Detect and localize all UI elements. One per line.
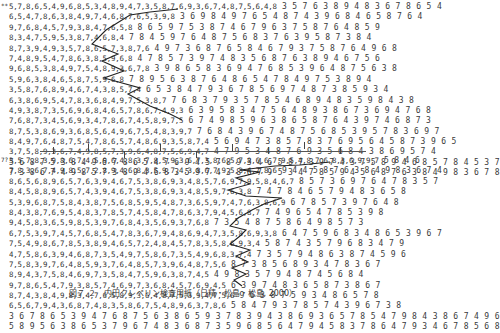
remaining-digits: 6 5 3 8 4 7 9 3 6 7 8 5 6 9 7 4 8 7 3 8 … xyxy=(146,85,389,94)
digit-row: 5,3,9,6,8,7,5,8,4,3,8,7,5,6,8,5,9,5,4,8,… xyxy=(9,198,366,208)
remaining-digits: 7 8 9 5 6 3 8 7 6 4 8 6 5 4 7 8 4 9 7 5 … xyxy=(129,75,372,84)
digit-row: 5,7,8,6,5,4,9,6,8,5,3,4,8,9,4,7,3,5,8,7,… xyxy=(9,2,366,12)
digit-row: 8,4,3,8,7,6,9,5,4,8,3,7,8,5,7,4,5,8,4,7,… xyxy=(9,208,366,218)
remaining-digits: 8 7 3 8 5 6 8 9 3 4 7 8 3 6 7 xyxy=(231,260,381,269)
completed-digits: 8,7,5,3,8,6,9,3,6,8,5,6,4,9,6,7,5,4,8,3,… xyxy=(9,127,192,136)
completed-digits: 8,3,4,7,5,9,5,3,8,7,4,6,8,4 xyxy=(9,33,124,42)
remaining-digits: 6 4 7 5 9 6 8 3 4 8 6 5 3 9 6 7 xyxy=(282,229,442,238)
ruler-tick xyxy=(268,147,269,154)
remaining-digits: 5 6 9 4 7 3 8 5 7 8 3 7 6 9 5 6 4 5 8 7 … xyxy=(214,137,457,146)
completed-digits: 5,9,6,3,8,4,6,5,8,7,5,9,6,8 xyxy=(9,75,124,84)
remaining-digits: 6 7 8 5 7 3 9 7 6 4 8 xyxy=(290,198,399,207)
digit-row: 4,7,5,8,6,3,9,4,6,8,7,3,5,4,9,7,5,8,6,7,… xyxy=(9,250,366,260)
completed-digits: 8,4,3,8,7,6,9,5,4,8,3,7,8,5,7,4,5,8,4,7,… xyxy=(9,208,260,217)
remaining-digits: 6 3 9 5 8 3 4 7 5 6 4 8 9 3 8 6 7 3 6 9 … xyxy=(188,106,431,115)
remaining-digits: 4 9 8 3 5 7 9 4 8 7 4 5 6 8 4 xyxy=(214,270,364,279)
digit-row: 3 6 7 8 6 5 3 9 4 7 6 8 7 5 6 3 8 6 5 9 … xyxy=(9,312,366,322)
remaining-digits: 7 6 8 3 7 9 3 5 7 8 5 4 6 8 9 4 8 3 5 9 … xyxy=(171,96,414,105)
completed-digits: 7,6,8,7,3,4,5,6,9,3,4,7,8,6,7,4,5,8,9,7,… xyxy=(9,116,183,125)
digit-row: 6,7,5,3,9,7,4,5,7,6,8,5,4,7,8,3,6,7,9,4,… xyxy=(9,229,366,239)
remaining-digits: 3 9 8 6 5 8 3 6 9 4 7 6 8 5 3 9 6 4 8 7 … xyxy=(154,64,397,73)
remaining-digits: 6 7 4 9 8 5 9 6 3 8 6 5 8 7 6 4 3 9 7 4 … xyxy=(188,116,431,125)
figure-caption: 図７.２ 内田クレペリン検査用紙（日精・松島・松島, 2000） xyxy=(0,287,366,297)
digit-row: 8,7,5,3,8,6,9,3,6,8,5,6,4,9,6,7,5,4,8,3,… xyxy=(9,127,366,137)
completed-digits: 7,5,8,3,9,7,6,4,8,5,9,3,7,6,4,8,5,7,3,9,… xyxy=(9,260,226,269)
digit-row: 5 8 9 5 6 3 8 6 5 3 7 9 6 7 4 8 3 6 8 7 … xyxy=(9,322,366,332)
digit-row: 7,4,8,9,5,4,7,8,6,3,8,5,9,6,8 4 7 8 5 7 … xyxy=(9,54,366,64)
completed-digits: 7,5,4,9,8,6,7,8,5,3,8,9,4,6,5,7,2,4,8,4,… xyxy=(9,239,260,248)
completed-digits: 9,6,8,5,3,8,4,9,7,5,4,8,9,3,6,7,8 xyxy=(9,64,149,73)
remaining-digits: 7 3 5 4 8 7 5 8 6 4 9 8 5 7 3 xyxy=(214,218,364,227)
digit-row: 7,5,8,3,9,7,6,4,8,5,9,3,7,6,4,8,5,7,3,9,… xyxy=(9,260,366,270)
remaining-digits: 7 4 9 6 5 4 7 8 5 3 9 8 xyxy=(265,208,384,217)
completed-digits: 6,5,4,7,8,6,3,8,4,9,7,4,6,8,7,6,5,3,9,8 xyxy=(9,12,175,21)
digit-grid-bottom: 3,5,7,8,3,9,8,6,7,4,5,9,6,4,8,3,7,8,5,9,… xyxy=(0,156,366,333)
ruler-tick xyxy=(232,144,233,151)
completed-digits: 8,7,3,9,4,9,3,5,7,8,6,5,7,3,8,7,6 xyxy=(9,44,149,53)
ruler-tick xyxy=(160,144,161,151)
remaining-digits: 5 8 4 7 9 3 7 8 5 7 4 3 9 6 7 3 8 xyxy=(231,301,402,310)
digit-row: 6,5,4,7,8,6,3,8,4,9,7,4,6,8,7,6,5,3,9,8 … xyxy=(9,12,366,22)
remaining-digits: 9 4 4 5 8 7 6 3 8 4 9 8 3 6 7 4 xyxy=(282,166,442,175)
remaining-digits: 3 6 9 8 4 9 7 6 5 4 8 7 4 3 9 6 8 4 6 5 … xyxy=(180,12,423,21)
completed-digits: 7,4,8,9,5,4,7,8,6,3,8,5,9,6,8 xyxy=(9,54,132,63)
completed-digits: 6,5,6,7,9,4,3,6,8,7,4,8,3,5,8,6,7,5,4,8,… xyxy=(9,301,226,310)
ruler-tick xyxy=(304,142,305,149)
digit-row: 6,3,8,6,9,5,4,7,8,3,6,8,4,9,7,5,3,8,7 7 … xyxy=(9,96,366,106)
remaining-digits: 7 6 8 4 3 9 6 7 4 8 7 5 6 8 5 3 9 5 7 8 … xyxy=(197,127,440,136)
remaining-digits: 5 8 7 4 3 5 7 9 6 8 3 4 7 9 xyxy=(265,239,405,248)
completed-digits: 8,4,5,8,8,9,6,5,7,4,3,9,4,6,7,5,3,8,6,9,… xyxy=(9,187,251,196)
completed-digits: 7,8,3,6,7,4,9,8,5,7,2,8,9,4,6,8,3,5,9,7,… xyxy=(9,166,277,175)
completed-digits: 4,7,5,8,6,3,9,4,6,8,7,3,5,4,9,7,5,8,6,7,… xyxy=(9,250,251,259)
completed-digits: 8,6,5,6,8,9,6,5,7,6,3,9,4,6,7,5,3,8,6,9,… xyxy=(9,177,294,186)
completed-digits: 3,5,8,7,6,8,9,4,6,7,4,3,8,5,7,4 xyxy=(9,85,141,94)
digit-row: 4,9,3,8,7,3,5,6,9,6,8,4,6,5,7,8,6,7,4,9,… xyxy=(9,106,366,116)
digit-row: 7,8,3,6,7,4,9,8,5,7,2,8,9,4,6,8,3,5,9,7,… xyxy=(9,166,366,176)
completed-digits: 5,7,8,6,5,4,9,6,8,5,3,4,8,9,4,7,3,5,8,7,… xyxy=(9,2,277,11)
test-sheet-bottom: 7? 3,5,7,8,3,9,8,6,7,4,5,9,6,4,8,3,7,8,5… xyxy=(0,156,366,333)
remaining-digits: 4 7 8 5 7 3 9 7 4 8 3 5 6 8 7 6 3 8 9 4 … xyxy=(137,54,380,63)
digit-row: 3,5,7,8,3,9,8,6,7,4,5,9,6,4,8,3,7,8,5,9,… xyxy=(9,156,366,166)
completed-digits: 8,4,9,7,6,4,8,7,5,4,7,8,6,5,7,4,8,6,9,3,… xyxy=(9,137,209,146)
remaining-digits: 4 9 7 3 6 8 7 6 5 8 4 6 7 9 3 7 5 8 7 6 … xyxy=(154,44,397,53)
remaining-digits: 3 6 7 8 6 5 3 9 4 7 6 8 7 5 6 3 8 6 5 9 … xyxy=(9,312,500,321)
completed-digits: 9,7,6,8,4,5,7,9,3,8,4,7,6,5,8 xyxy=(9,23,132,32)
digit-row: 9,4,5,8,3,6,5,9,8,5,3,9,7,6,8,4,3,5,6,9,… xyxy=(9,218,366,228)
digit-row: 7,6,8,7,3,4,5,6,9,3,4,7,8,6,7,4,5,8,9,7,… xyxy=(9,116,366,126)
completed-digits: 9,4,5,8,3,6,5,9,8,5,3,9,7,6,8,4,3,5,6,9,… xyxy=(9,218,209,227)
digit-row: 8,4,5,8,8,9,6,5,7,4,3,9,4,6,7,5,3,8,6,9,… xyxy=(9,187,366,197)
remaining-digits: 3 5 7 6 3 8 9 4 8 3 6 7 8 6 5 4 xyxy=(282,2,442,11)
digit-row: 8,3,4,7,5,9,5,3,8,7,4,6,8,4 7 8 4 5 9 7 … xyxy=(9,33,366,43)
digit-row: 7,5,4,9,8,6,7,8,5,3,8,9,4,6,5,7,2,4,8,4,… xyxy=(9,239,366,249)
ruler-line xyxy=(40,151,366,152)
remaining-digits: 5 8 4 6 xyxy=(384,156,420,165)
digit-row: 9,7,6,8,4,5,7,9,3,8,4,7,6,5,8 8 6 5 9 7 … xyxy=(9,23,366,33)
remaining-digits: 7 8 4 5 9 7 6 4 8 7 5 6 8 3 7 6 3 9 5 8 … xyxy=(129,33,372,42)
digit-row: 3,5,8,7,6,8,9,4,6,7,4,3,8,5,7,4 6 5 3 8 … xyxy=(9,85,366,95)
remaining-digits: 7 3 5 7 9 4 8 6 3 8 7 4 5 9 6 xyxy=(256,250,406,259)
completed-digits: 4,9,3,8,7,3,5,6,9,6,8,4,6,5,7,8,6,7,4,9,… xyxy=(9,106,183,115)
completed-digits: 6,3,8,6,9,5,4,7,8,3,6,8,4,9,7,5,3,8,7 xyxy=(9,96,166,105)
digit-row: 8,7,3,9,4,9,3,5,7,8,6,5,7,3,8,7,6 4 9 7 … xyxy=(9,44,366,54)
digit-row: 6,5,6,7,9,4,3,6,8,7,4,8,3,5,8,6,7,5,4,8,… xyxy=(9,301,366,311)
completed-digits: 8,9,4,3,7,5,8,4,6,9,7,3,5,8,4,7,5,9,6,3,… xyxy=(9,270,209,279)
digit-row: 5,9,6,3,8,4,6,5,8,7,5,9,6,8 7 8 9 5 6 3 … xyxy=(9,75,366,85)
remaining-digits: 8 6 5 9 7 5 3 8 7 4 6 7 9 6 3 7 5 8 7 6 … xyxy=(137,23,380,32)
digit-row: 9,6,8,5,3,8,4,9,7,5,4,8,9,3,6,7,8 3 9 8 … xyxy=(9,64,366,74)
remaining-digits: 5 8 9 5 6 3 8 6 5 3 7 9 6 7 4 8 3 6 8 7 … xyxy=(9,322,500,331)
digit-row: 8,9,4,3,7,5,8,4,6,9,7,3,5,8,4,7,5,9,6,3,… xyxy=(9,270,366,280)
ruler-tick xyxy=(88,144,89,151)
completed-digits: 5,3,9,6,8,7,5,8,4,3,8,7,5,6,8,5,9,5,4,8,… xyxy=(9,198,285,207)
ruler-tick xyxy=(53,147,54,154)
remaining-digits: 8 5 7 3 6 9 7 6 4 7 8 3 5 7 xyxy=(299,177,439,186)
completed-digits: 6,7,5,3,9,7,4,5,7,6,8,5,4,7,8,3,6,7,9,4,… xyxy=(9,229,277,238)
completed-digits: 3,5,7,8,3,9,8,6,7,4,5,9,6,4,8,3,7,8,5,9,… xyxy=(9,156,379,165)
remaining-digits: 7 4 7 8 4 6 5 7 9 4 8 3 6 5 8 xyxy=(256,187,406,196)
digit-row: 8,6,5,6,8,9,6,5,7,6,3,9,4,6,7,5,3,8,6,9,… xyxy=(9,177,366,187)
ruler-tick xyxy=(340,147,341,154)
